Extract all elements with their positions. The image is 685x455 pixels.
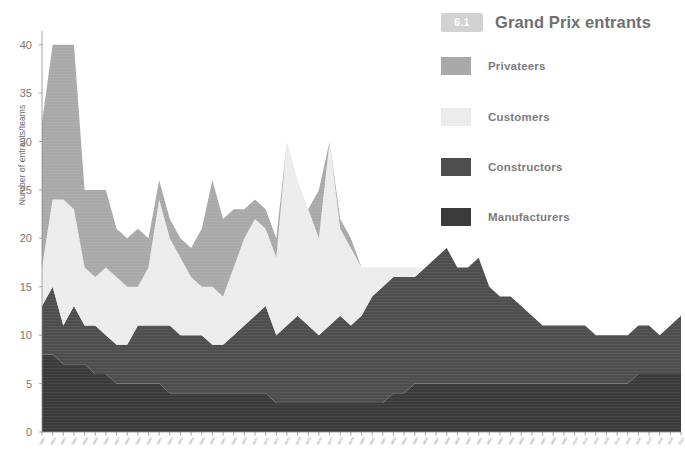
chart-figure: Number of entrants/teams 051015202530354… — [0, 0, 685, 455]
x-tick-label: 1983 — [390, 437, 397, 446]
x-tick-label: 2001 — [582, 437, 589, 446]
x-tick-label: 1962 — [167, 437, 174, 446]
x-tick-label: 2009 — [667, 437, 674, 446]
x-tick-label: 1966 — [209, 437, 216, 446]
legend-swatch-icon — [441, 158, 471, 176]
x-tick-label: 1995 — [518, 437, 525, 446]
legend-item-label: Customers — [488, 111, 550, 123]
x-tick-label: 1968 — [230, 437, 237, 446]
legend-title-row: 6.1 Grand Prix entrants — [441, 10, 651, 34]
x-tick-label: 1994 — [507, 437, 514, 446]
x-tick-label: 1969 — [241, 437, 248, 446]
legend-item-privateers[interactable]: Privateers — [441, 55, 546, 77]
x-tick-label: 2008 — [656, 437, 663, 446]
x-tick-label: 1954 — [81, 437, 88, 446]
x-tick-label: 1960 — [145, 437, 152, 446]
x-tick-label: 1996 — [529, 437, 536, 446]
x-tick-label: 1992 — [486, 437, 493, 446]
legend-item-constructors[interactable]: Constructors — [441, 156, 563, 178]
x-tick-label: 1951 — [49, 437, 56, 446]
legend-item-label: Privateers — [488, 60, 546, 72]
stacked-area-plot — [0, 0, 685, 455]
legend-item-manufacturers[interactable]: Manufacturers — [441, 206, 570, 228]
x-tick-label: 2002 — [593, 437, 600, 446]
x-tick-label: 1952 — [60, 437, 67, 446]
x-tick-label: 1981 — [369, 437, 376, 446]
x-tick-label: 1970 — [252, 437, 259, 446]
x-tick-label: 1991 — [475, 437, 482, 446]
legend-swatch-icon — [441, 57, 471, 75]
legend-item-label: Manufacturers — [488, 211, 570, 223]
x-tick-label: 1975 — [305, 437, 312, 446]
x-tick-label: 2007 — [646, 437, 653, 446]
x-tick-label: 1987 — [433, 437, 440, 446]
x-tick-label: 1982 — [380, 437, 387, 446]
legend-item-customers[interactable]: Customers — [441, 106, 550, 128]
x-tick-label: 1993 — [497, 437, 504, 446]
x-tick-label: 1956 — [103, 437, 110, 446]
x-tick-label: 1957 — [113, 437, 120, 446]
x-axis-tick-labels: 1950195119521953195419551956195719581959… — [0, 434, 685, 455]
x-tick-label: 1977 — [326, 437, 333, 446]
x-tick-label: 1979 — [348, 437, 355, 446]
x-tick-label: 1950 — [39, 437, 46, 446]
x-tick-label: 1973 — [284, 437, 291, 446]
x-tick-label: 1961 — [156, 437, 163, 446]
x-tick-label: 1986 — [422, 437, 429, 446]
x-tick-label: 1998 — [550, 437, 557, 446]
x-tick-label: 1959 — [135, 437, 142, 446]
x-tick-label: 1967 — [220, 437, 227, 446]
legend-swatch-icon — [441, 208, 471, 226]
chart-number-text: 6.1 — [454, 16, 470, 28]
legend-swatch-icon — [441, 108, 471, 126]
x-tick-label: 1984 — [401, 437, 408, 446]
chart-number-badge: 6.1 — [441, 13, 483, 32]
x-tick-label: 1990 — [465, 437, 472, 446]
x-tick-label: 1989 — [454, 437, 461, 446]
x-tick-label: 1963 — [177, 437, 184, 446]
x-tick-label: 1964 — [188, 437, 195, 446]
x-tick-label: 2004 — [614, 437, 621, 446]
x-tick-label: 1958 — [124, 437, 131, 446]
x-tick-label: 1953 — [71, 437, 78, 446]
x-tick-label: 2000 — [571, 437, 578, 446]
x-tick-label: 1985 — [411, 437, 418, 446]
x-tick-label: 1988 — [443, 437, 450, 446]
chart-title: Grand Prix entrants — [495, 13, 651, 32]
x-tick-label: 1999 — [561, 437, 568, 446]
x-tick-label: 2005 — [624, 437, 631, 446]
x-tick-label: 1974 — [294, 437, 301, 446]
x-tick-label: 2010 — [678, 437, 685, 446]
x-tick-label: 2006 — [635, 437, 642, 446]
x-tick-label: 1972 — [273, 437, 280, 446]
legend-item-label: Constructors — [488, 161, 563, 173]
x-tick-label: 1965 — [198, 437, 205, 446]
x-tick-label: 1971 — [262, 437, 269, 446]
x-tick-label: 1980 — [358, 437, 365, 446]
x-tick-label: 1976 — [316, 437, 323, 446]
x-tick-label: 1997 — [539, 437, 546, 446]
x-tick-label: 2003 — [603, 437, 610, 446]
x-tick-label: 1978 — [337, 437, 344, 446]
x-tick-label: 1955 — [92, 437, 99, 446]
